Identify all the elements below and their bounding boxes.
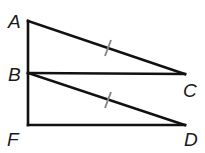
label-c: C [183,80,197,101]
geometry-figure: A B C F D [0,0,205,153]
segment-bd [28,73,185,125]
figure-canvas: A B C F D [0,0,205,153]
segment-ac [28,21,185,74]
segment-bc [28,73,185,74]
label-f: F [7,129,20,150]
label-d: D [184,129,198,150]
label-a: A [7,11,21,32]
label-b: B [8,64,21,85]
